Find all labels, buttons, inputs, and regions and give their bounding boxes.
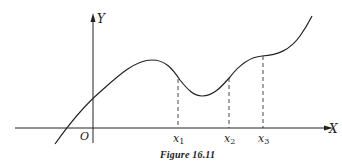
origin-label: O [80, 130, 89, 143]
x-axis-label: X [328, 122, 338, 136]
x1-label: x1 [173, 132, 184, 146]
x3-label: x3 [258, 132, 269, 146]
figure-caption: Figure 16.11 [160, 149, 215, 160]
figure-diagram: Y X O x1 x2 x3 [0, 0, 342, 168]
function-curve [55, 16, 312, 144]
y-axis-arrow-icon [91, 13, 96, 22]
x2-label: x2 [224, 132, 235, 146]
y-axis-label: Y [97, 12, 106, 26]
